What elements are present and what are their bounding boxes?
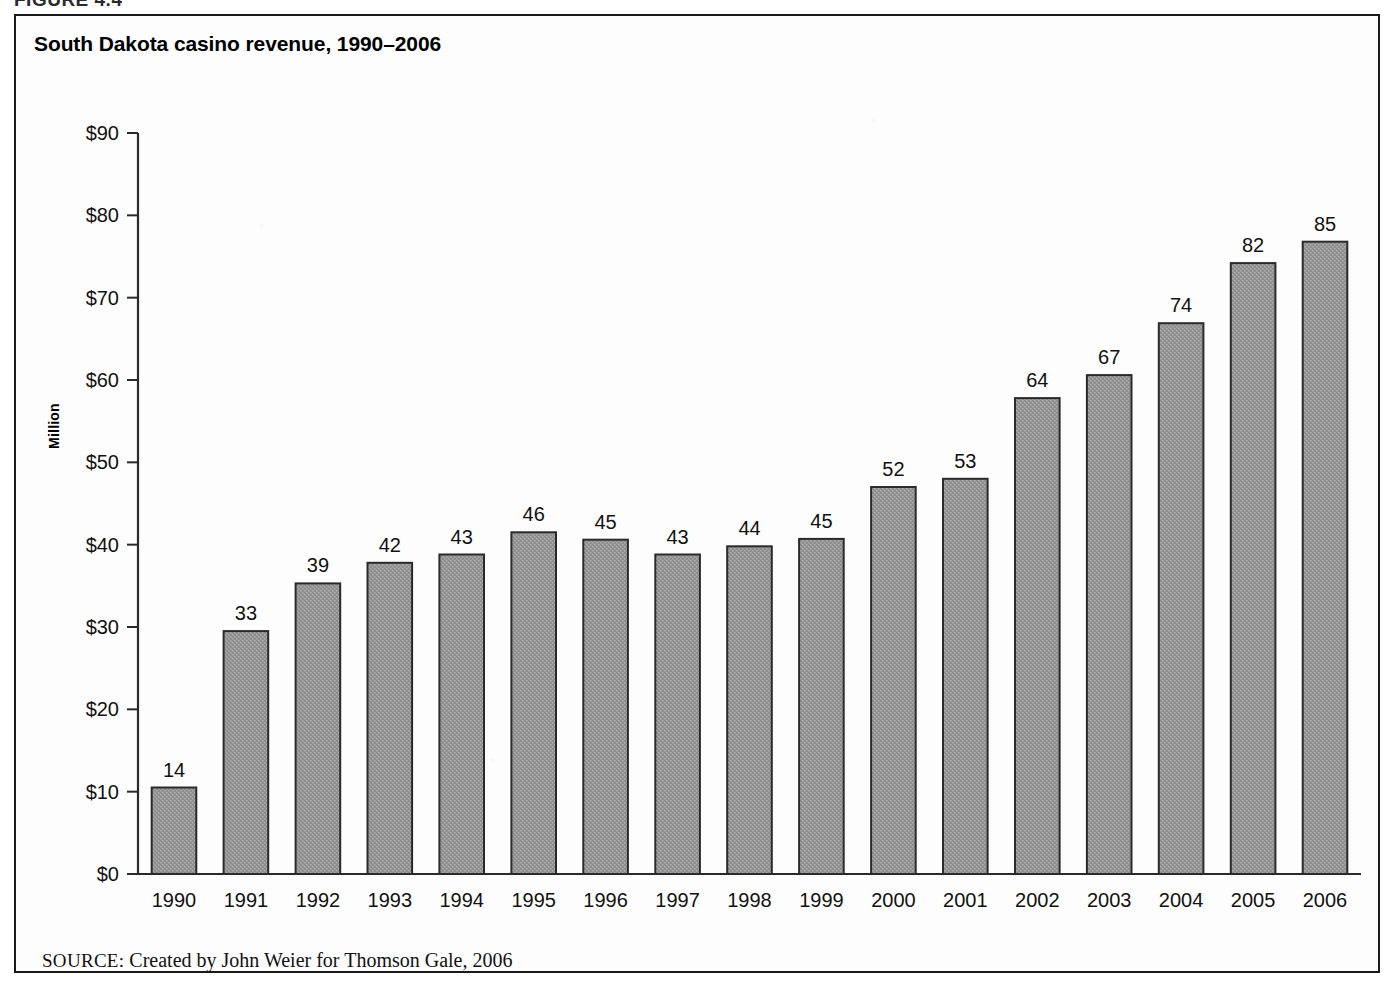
y-axis-ticks: $0$10$20$30$40$50$60$70$80$90 <box>86 122 138 885</box>
x-axis-label-1995: 1995 <box>511 889 556 911</box>
figure-frame: South Dakota casino revenue, 1990–2006 M… <box>14 14 1380 973</box>
y-tick-label: $40 <box>86 534 119 556</box>
x-axis-label-1996: 1996 <box>583 889 628 911</box>
bar-1991 <box>224 631 269 874</box>
y-tick-label: $90 <box>86 122 119 144</box>
bar-value-label-1999: 45 <box>810 510 832 532</box>
y-tick-label: $20 <box>86 698 119 720</box>
bar-2003 <box>1087 375 1132 874</box>
bar-1996 <box>583 540 628 874</box>
x-axis-label-1994: 1994 <box>439 889 484 911</box>
bar-value-label-2002: 64 <box>1026 369 1048 391</box>
bar-2000 <box>871 487 916 874</box>
x-axis-label-1991: 1991 <box>224 889 269 911</box>
bar-1998 <box>727 546 772 874</box>
bar-1993 <box>368 563 413 874</box>
y-tick-label: $60 <box>86 369 119 391</box>
bar-2004 <box>1159 323 1204 874</box>
bar-value-label-1990: 14 <box>163 759 185 781</box>
bar-value-label-2005: 82 <box>1242 234 1264 256</box>
bar-value-label-2000: 52 <box>882 458 904 480</box>
source-text: Created by John Weier for Thomson Gale, … <box>124 949 512 971</box>
x-axis-label-1993: 1993 <box>368 889 413 911</box>
bar-value-label-1994: 43 <box>451 526 473 548</box>
bar-value-label-2001: 53 <box>954 450 976 472</box>
y-tick-label: $70 <box>86 287 119 309</box>
x-axis-label-2005: 2005 <box>1231 889 1276 911</box>
bar-value-label-1992: 39 <box>307 554 329 576</box>
source-note: SOURCE: Created by John Weier for Thomso… <box>42 949 512 972</box>
bar-1999 <box>799 539 844 874</box>
x-axis-label-2004: 2004 <box>1159 889 1204 911</box>
bar-value-label-2004: 74 <box>1170 294 1192 316</box>
bar-value-label-1993: 42 <box>379 534 401 556</box>
x-axis-label-1990: 1990 <box>152 889 197 911</box>
bar-value-label-1996: 45 <box>594 511 616 533</box>
bar-2001 <box>943 479 988 874</box>
x-axis-label-1999: 1999 <box>799 889 844 911</box>
y-tick-label: $10 <box>86 781 119 803</box>
figure-caption: FIGURE 4.4 <box>14 0 122 9</box>
source-label: SOURCE: <box>42 950 124 971</box>
bar-value-label-2006: 85 <box>1314 213 1336 235</box>
bar-1994 <box>439 555 484 875</box>
bar-value-label-2003: 67 <box>1098 346 1120 368</box>
bar-value-label-1995: 46 <box>523 503 545 525</box>
y-tick-label: $80 <box>86 204 119 226</box>
x-axis-label-2000: 2000 <box>871 889 916 911</box>
bar-value-label-1991: 33 <box>235 602 257 624</box>
bar-1995 <box>511 532 556 874</box>
x-axis-label-1998: 1998 <box>727 889 772 911</box>
y-tick-label: $30 <box>86 616 119 638</box>
bar-1990 <box>152 788 197 874</box>
bar-chart-svg: $0$10$20$30$40$50$60$70$80$90 1433394243… <box>16 16 1382 975</box>
x-axis-label-2006: 2006 <box>1303 889 1348 911</box>
bar-2005 <box>1231 263 1276 874</box>
x-axis-label-1997: 1997 <box>655 889 700 911</box>
bar-chart-plot-area: $0$10$20$30$40$50$60$70$80$90 1433394243… <box>16 16 1382 975</box>
bar-value-label-1998: 44 <box>738 517 760 539</box>
bar-2006 <box>1303 242 1348 874</box>
x-axis-label-2003: 2003 <box>1087 889 1132 911</box>
bar-1997 <box>655 555 700 875</box>
bar-value-label-1997: 43 <box>666 526 688 548</box>
bar-1992 <box>296 583 341 874</box>
bars-group <box>152 242 1348 874</box>
y-tick-label: $50 <box>86 451 119 473</box>
bar-2002 <box>1015 398 1060 874</box>
x-axis-label-2001: 2001 <box>943 889 988 911</box>
y-tick-label: $0 <box>97 863 119 885</box>
x-axis-labels: 1990199119921993199419951996199719981999… <box>152 889 1348 911</box>
x-axis-label-1992: 1992 <box>296 889 341 911</box>
x-axis-label-2002: 2002 <box>1015 889 1060 911</box>
